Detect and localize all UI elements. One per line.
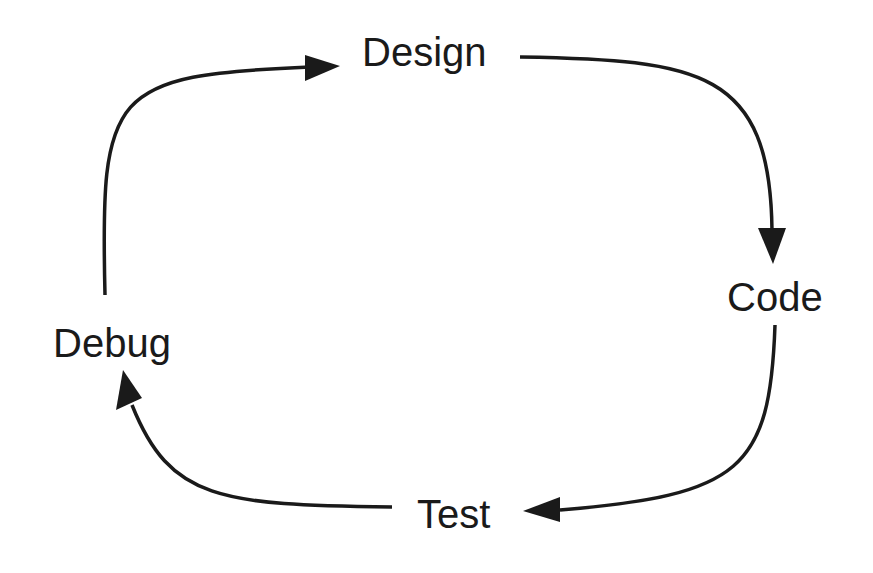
arrow-code-to-test bbox=[523, 325, 775, 522]
arrow-debug-to-design bbox=[104, 55, 340, 295]
node-code: Code bbox=[727, 277, 823, 317]
node-debug: Debug bbox=[53, 323, 171, 363]
node-test: Test bbox=[417, 494, 490, 534]
arrow-test-to-debug bbox=[116, 370, 392, 507]
arrow-design-to-code bbox=[520, 57, 786, 264]
node-design: Design bbox=[362, 32, 487, 72]
